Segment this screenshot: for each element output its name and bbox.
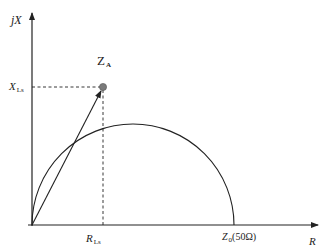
resistance-label: RLs bbox=[86, 233, 101, 246]
y-axis-label: jX bbox=[11, 14, 22, 26]
impedance-point bbox=[99, 83, 106, 90]
reactance-label-subscript: Ls bbox=[17, 86, 24, 94]
reactance-label: XLs bbox=[9, 81, 24, 94]
z0-label-main: Z bbox=[222, 231, 228, 242]
constant-circle-arc bbox=[32, 124, 234, 225]
z0-label: Z0(50Ω) bbox=[222, 232, 256, 244]
z0-label-value: (50Ω) bbox=[232, 231, 256, 242]
impedance-vector bbox=[32, 91, 101, 225]
x-axis-label: R bbox=[309, 236, 316, 247]
point-label-main: Z bbox=[97, 53, 105, 68]
point-label: ZA bbox=[97, 54, 111, 69]
resistance-label-subscript: Ls bbox=[94, 238, 101, 246]
reactance-label-main: X bbox=[9, 80, 16, 92]
impedance-diagram bbox=[0, 0, 330, 251]
point-label-subscript: A bbox=[106, 61, 111, 69]
resistance-label-main: R bbox=[86, 232, 93, 244]
